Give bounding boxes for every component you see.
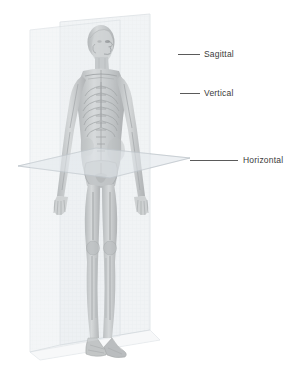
anatomical-planes-illustration: Sagittal Vertical Horizontal [0, 0, 303, 380]
leader-line-horizontal [190, 160, 238, 161]
label-sagittal: Sagittal [204, 49, 234, 59]
label-horizontal: Horizontal [243, 155, 283, 165]
figure-and-planes-graphic [0, 0, 303, 380]
plane-front-overlay [30, 14, 150, 352]
leader-line-sagittal [178, 54, 200, 55]
label-vertical: Vertical [204, 88, 233, 98]
leader-line-vertical [180, 93, 200, 94]
